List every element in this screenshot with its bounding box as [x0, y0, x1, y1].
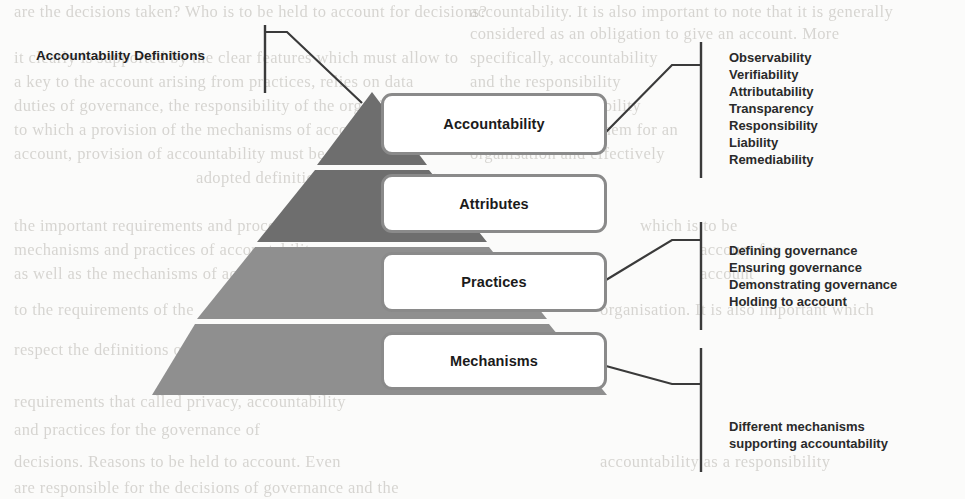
annotation-line: Remediability [729, 151, 818, 168]
attributes-annotation: Observability Verifiability Attributabil… [729, 49, 818, 168]
annotation-line: Liability [729, 134, 818, 151]
annotation-line: Transparency [729, 100, 818, 117]
annotation-line: Responsibility [729, 117, 818, 134]
annotation-line: Observability [729, 49, 818, 66]
annotation-line: Holding to account [729, 293, 897, 310]
annotation-line: Attributability [729, 83, 818, 100]
annotation-line: Ensuring governance [729, 259, 897, 276]
annotation-line: Different mechanisms [729, 418, 888, 435]
annotation-line: Verifiability [729, 66, 818, 83]
annotation-line: Demonstrating governance [729, 276, 897, 293]
figure-canvas: are the decisions taken? Who is to be he… [0, 0, 965, 499]
mechanisms-annotation: Different mechanisms supporting accounta… [729, 418, 888, 452]
practices-annotation: Defining governance Ensuring governance … [729, 242, 897, 310]
annotation-line: supporting accountability [729, 435, 888, 452]
annotation-line: Defining governance [729, 242, 897, 259]
figure-text: Accountability Definitions Observability… [0, 0, 965, 499]
accountability-definitions-label: Accountability Definitions [36, 48, 205, 63]
